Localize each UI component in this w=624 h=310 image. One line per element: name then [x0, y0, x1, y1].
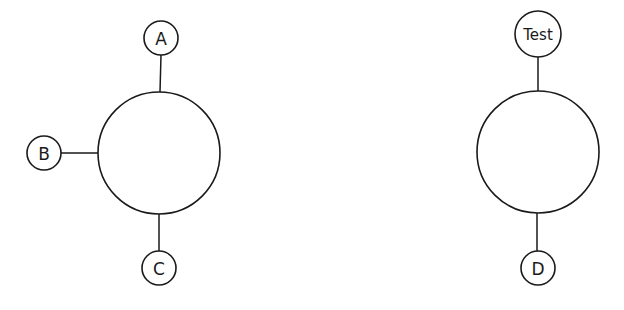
hub-group-left: A B C [27, 21, 220, 285]
hub-node-left[interactable] [98, 92, 220, 214]
node-b[interactable]: B [27, 136, 61, 170]
hub-node-right[interactable] [477, 91, 599, 213]
node-a[interactable]: A [144, 21, 178, 55]
node-c-label: C [153, 259, 165, 279]
node-test-label: Test [522, 26, 553, 44]
hub-group-right: Test D [477, 11, 599, 285]
node-c[interactable]: C [142, 251, 176, 285]
edge-a-hub [160, 55, 161, 92]
node-b-label: B [38, 144, 50, 164]
node-d-label: D [531, 259, 544, 279]
node-a-label: A [155, 29, 167, 49]
diagram-canvas: A B C Test D [0, 0, 624, 310]
node-d[interactable]: D [521, 251, 555, 285]
node-test[interactable]: Test [515, 11, 561, 57]
